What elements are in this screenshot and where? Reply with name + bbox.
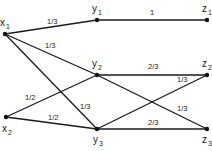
node-z2 (205, 73, 209, 77)
node-x1 (3, 32, 7, 36)
node-label-y2: y2 (92, 58, 102, 71)
edge-label-x2-y3: 1/2 (48, 113, 58, 122)
edge-label-y1-z1: 1 (150, 8, 154, 17)
edge-label-x1-y3: 1/3 (80, 102, 90, 111)
node-z1 (205, 18, 209, 22)
edge-label-y3-z2: 1/3 (177, 75, 187, 84)
node-label-y1: y1 (92, 3, 102, 16)
edge-labels: 1/31/31/31/21/212/31/31/32/3 (25, 8, 187, 127)
node-x2 (4, 115, 8, 119)
node-label-z1: z1 (202, 3, 212, 16)
node-label-z2: z2 (202, 58, 212, 71)
node-z3 (205, 127, 209, 131)
node-label-x1: x1 (0, 17, 10, 30)
edge-label-y3-z3: 2/3 (148, 118, 158, 127)
node-label-x2: x2 (2, 123, 12, 136)
node-label-y3: y3 (93, 134, 103, 147)
node-y2 (95, 73, 99, 77)
edge-label-y2-z2: 2/3 (148, 62, 158, 71)
edge-label-x2-y2: 1/2 (25, 93, 35, 102)
node-label-z3: z3 (202, 134, 212, 147)
transition-graph: 1/31/31/31/21/212/31/31/32/3 x1x2y1y2y3z… (0, 0, 212, 151)
node-y3 (95, 127, 99, 131)
node-y1 (95, 18, 99, 22)
edge-label-x1-y1: 1/3 (47, 17, 57, 26)
edge-label-x1-y2: 1/3 (45, 41, 55, 50)
edge-label-y2-z3: 1/3 (177, 104, 187, 113)
